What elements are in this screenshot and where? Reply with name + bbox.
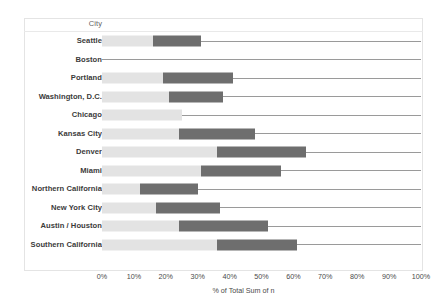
chart-row: Seattle bbox=[24, 32, 423, 51]
chart-row: Miami bbox=[24, 162, 423, 181]
x-tick-label: 50% bbox=[254, 272, 268, 281]
row-label: Northern California bbox=[32, 180, 102, 199]
chart-row: Boston bbox=[24, 51, 423, 70]
stacked-bar[interactable] bbox=[102, 36, 421, 47]
row-label: Portland bbox=[71, 69, 102, 88]
bar-segment-light[interactable] bbox=[102, 184, 140, 195]
row-plot-area bbox=[102, 199, 421, 218]
bar-segment-light[interactable] bbox=[102, 91, 169, 102]
row-plot-area bbox=[102, 106, 421, 125]
row-plot-area bbox=[102, 32, 421, 51]
x-tick-label: 40% bbox=[222, 272, 236, 281]
stacked-bar[interactable] bbox=[102, 54, 421, 65]
field-header-city: City bbox=[89, 19, 102, 28]
x-axis-title-wrap: % of Total Sum of n bbox=[0, 286, 447, 295]
bar-segment-light[interactable] bbox=[102, 239, 217, 250]
stacked-bar[interactable] bbox=[102, 184, 421, 195]
row-plot-area bbox=[102, 180, 421, 199]
chart-row: Portland bbox=[24, 69, 423, 88]
row-plot-area bbox=[102, 69, 421, 88]
stacked-bar[interactable] bbox=[102, 147, 421, 158]
stacked-bar[interactable] bbox=[102, 221, 421, 232]
chart-container: City SeattleBostonPortlandWashington, D.… bbox=[0, 0, 447, 306]
stacked-bar[interactable] bbox=[102, 165, 421, 176]
row-label: Denver bbox=[76, 143, 102, 162]
field-header-band: City bbox=[24, 18, 423, 32]
bar-segment-dark[interactable] bbox=[163, 73, 233, 84]
x-tick-label: 70% bbox=[318, 272, 332, 281]
chart-row: New York City bbox=[24, 199, 423, 218]
x-tick-label: 80% bbox=[350, 272, 364, 281]
x-tick-label: 0% bbox=[97, 272, 107, 281]
x-tick-label: 30% bbox=[190, 272, 204, 281]
x-axis-title: % of Total Sum of n bbox=[212, 286, 274, 295]
stacked-bar[interactable] bbox=[102, 239, 421, 250]
chart-row: Denver bbox=[24, 143, 423, 162]
bar-segment-light[interactable] bbox=[102, 147, 217, 158]
row-plot-area bbox=[102, 236, 421, 255]
row-plot-area bbox=[102, 162, 421, 181]
bar-segment-light[interactable] bbox=[102, 73, 163, 84]
row-label: New York City bbox=[51, 199, 102, 218]
bar-segment-dark[interactable] bbox=[217, 147, 306, 158]
bar-segment-dark[interactable] bbox=[156, 202, 220, 213]
chart-row: Northern California bbox=[24, 180, 423, 199]
row-plot-area bbox=[102, 217, 421, 236]
chart-row: Southern California bbox=[24, 236, 423, 255]
chart-rows: SeattleBostonPortlandWashington, D.C.Chi… bbox=[24, 32, 423, 254]
stacked-bar[interactable] bbox=[102, 73, 421, 84]
row-label: Southern California bbox=[31, 236, 102, 255]
bar-segment-light[interactable] bbox=[102, 202, 156, 213]
x-tick-label: 60% bbox=[286, 272, 300, 281]
chart-row: Austin / Houston bbox=[24, 217, 423, 236]
x-axis: 0%10%20%30%40%50%60%70%80%90%100% bbox=[24, 272, 423, 284]
x-tick-label: 100% bbox=[412, 272, 430, 281]
row-label: Kansas City bbox=[58, 125, 102, 144]
bar-segment-light[interactable] bbox=[102, 165, 201, 176]
row-plot-area bbox=[102, 51, 421, 70]
row-label: Washington, D.C. bbox=[39, 88, 102, 107]
bar-segment-dark[interactable] bbox=[201, 165, 281, 176]
row-label: Austin / Houston bbox=[40, 217, 102, 236]
chart-row: Chicago bbox=[24, 106, 423, 125]
bar-segment-dark[interactable] bbox=[179, 128, 256, 139]
bar-segment-dark[interactable] bbox=[169, 91, 223, 102]
bar-segment-light[interactable] bbox=[102, 36, 153, 47]
row-plot-area bbox=[102, 88, 421, 107]
row-label: Seattle bbox=[77, 32, 102, 51]
row-label: Chicago bbox=[72, 106, 102, 125]
bar-segment-dark[interactable] bbox=[217, 239, 297, 250]
bar-segment-light[interactable] bbox=[102, 221, 179, 232]
row-label: Boston bbox=[76, 51, 102, 70]
bar-segment-dark[interactable] bbox=[179, 221, 268, 232]
bar-segment-light[interactable] bbox=[102, 110, 182, 121]
x-tick-label: 20% bbox=[159, 272, 173, 281]
stacked-bar[interactable] bbox=[102, 128, 421, 139]
row-label: Miami bbox=[80, 162, 102, 181]
row-plot-area bbox=[102, 143, 421, 162]
bar-total-rule bbox=[102, 59, 421, 60]
chart-row: Kansas City bbox=[24, 125, 423, 144]
row-plot-area bbox=[102, 125, 421, 144]
x-tick-label: 90% bbox=[382, 272, 396, 281]
bar-segment-dark[interactable] bbox=[140, 184, 197, 195]
chart-row: Washington, D.C. bbox=[24, 88, 423, 107]
stacked-bar[interactable] bbox=[102, 91, 421, 102]
stacked-bar[interactable] bbox=[102, 110, 421, 121]
bar-segment-dark[interactable] bbox=[153, 36, 201, 47]
stacked-bar[interactable] bbox=[102, 202, 421, 213]
bar-segment-light[interactable] bbox=[102, 128, 179, 139]
x-tick-label: 10% bbox=[127, 272, 141, 281]
